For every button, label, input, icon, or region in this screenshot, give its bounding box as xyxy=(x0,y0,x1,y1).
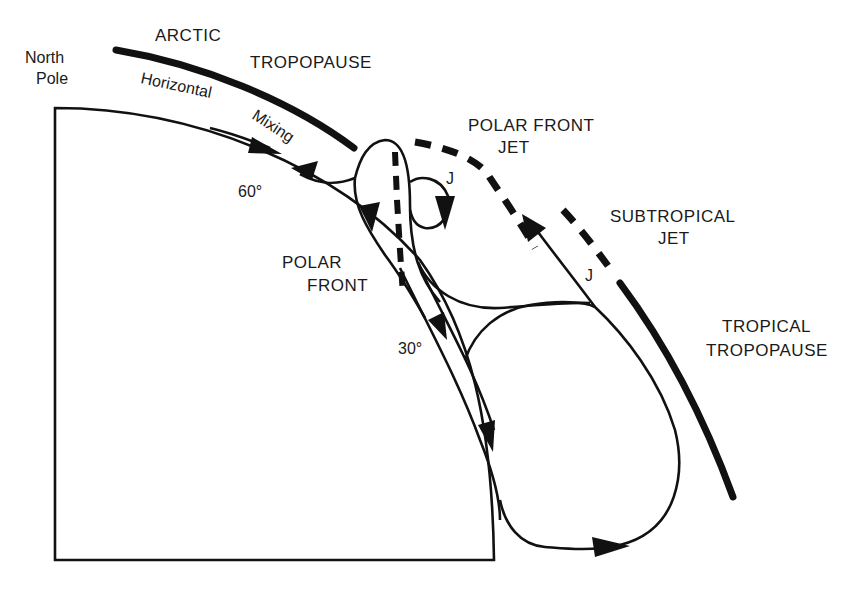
surface-flow-arrowhead-1 xyxy=(428,312,447,340)
tropical-tropopause-line xyxy=(620,283,733,497)
label-tropical-tropopause-2: TROPOPAUSE xyxy=(706,341,828,360)
surface-flow-outer xyxy=(400,268,500,520)
hadley-cell-loop xyxy=(465,302,679,549)
label-subtropical-jet-2: JET xyxy=(658,229,690,248)
earth-surface xyxy=(55,108,494,560)
label-tropical-tropopause-1: TROPICAL xyxy=(722,317,811,336)
horizontal-mixing-arrowhead xyxy=(248,137,282,154)
label-subtropical-jet-1: SUBTROPICAL xyxy=(610,207,735,226)
circulation-diagram: North Pole ARCTIC TROPOPAUSE Horizontal … xyxy=(0,0,846,593)
label-lat-60: 60° xyxy=(238,183,262,200)
label-lat-30: 30° xyxy=(398,340,422,357)
label-polar-front-jet-2: JET xyxy=(498,138,530,157)
label-arctic-tropopause: TROPOPAUSE xyxy=(250,53,372,72)
label-jet-marker-polar: J xyxy=(446,170,454,187)
label-polar-front-2: FRONT xyxy=(307,276,368,295)
polar-front-jet-dash xyxy=(415,142,535,248)
label-polar-front-1: POLAR xyxy=(282,253,342,272)
subtropical-jet-dash xyxy=(563,210,614,274)
label-jet-marker-subtropical: J xyxy=(585,267,593,284)
label-north-pole-1: North xyxy=(25,49,64,66)
label-arctic: ARCTIC xyxy=(155,26,221,45)
label-north-pole-2: Pole xyxy=(36,70,68,87)
label-polar-front-jet-1: POLAR FRONT xyxy=(468,116,594,135)
surface-flow-inner xyxy=(420,268,494,430)
hadley-bottom-arrowhead xyxy=(592,537,630,557)
